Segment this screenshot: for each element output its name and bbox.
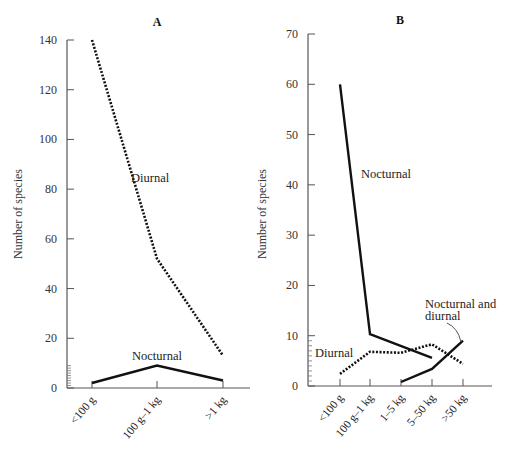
y-tick-label: 140	[39, 33, 57, 47]
nocturnal-and-diurnal-line	[401, 341, 463, 382]
y-tick-label: 30	[286, 228, 298, 242]
panel-b-nocturnal-label: Nocturnal	[361, 167, 412, 181]
x-tick-label: <100 g	[68, 393, 99, 426]
x-tick-label: 100 g–1 kg	[120, 393, 163, 441]
y-tick-label: 60	[286, 77, 298, 91]
panel-b-diurnal-label: Diurnal	[315, 346, 354, 360]
y-tick-label: 70	[286, 27, 298, 41]
panel-a-y-axis-label: Number of species	[11, 169, 25, 259]
x-tick-label: 5–50 kg	[404, 391, 438, 428]
panel-a-lines	[92, 40, 223, 383]
y-tick-label: 80	[45, 182, 57, 196]
nocturnal-line	[92, 366, 223, 383]
y-tick-label: 0	[292, 379, 298, 393]
y-tick-label: 0	[51, 381, 57, 395]
y-tick-label: 40	[286, 178, 298, 192]
y-tick-label: 50	[286, 128, 298, 142]
panel-b-both-label-line2: diurnal	[425, 309, 461, 323]
diurnal-line	[92, 40, 223, 356]
y-tick-label: 60	[45, 232, 57, 246]
x-tick-label: >50 kg	[439, 391, 470, 424]
figure: A Number of species 020406080100120140<1…	[0, 0, 512, 458]
panel-b-y-axis-label: Number of species	[255, 169, 269, 259]
panel-a: A Number of species 020406080100120140<1…	[11, 15, 250, 442]
panel-a-nocturnal-label: Nocturnal	[132, 349, 183, 363]
panel-b-title: B	[396, 13, 404, 27]
panel-b-lines	[340, 84, 463, 382]
y-tick-label: 40	[45, 282, 57, 296]
panel-a-title: A	[153, 15, 162, 29]
x-tick-label: 1–5 kg	[377, 391, 407, 424]
panel-b: B Number of species 010203040506070<100 …	[255, 13, 497, 440]
panel-b-axes: 010203040506070<100 g100 g–1 kg1–5 kg5–5…	[286, 27, 492, 440]
x-tick-label: >1 kg	[202, 393, 229, 422]
y-tick-label: 120	[39, 83, 57, 97]
y-tick-label: 20	[286, 278, 298, 292]
y-tick-label: 10	[286, 329, 298, 343]
y-tick-label: 100	[39, 132, 57, 146]
panel-b-leader-line	[447, 323, 461, 342]
y-tick-label: 20	[45, 331, 57, 345]
panel-a-diurnal-label: Diurnal	[131, 171, 170, 185]
nocturnal-line	[340, 84, 432, 358]
